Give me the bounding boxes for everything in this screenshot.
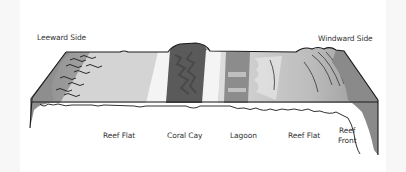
- lagoon-patch-1: [228, 72, 246, 77]
- reef-front-label-line1: Reef: [338, 126, 356, 136]
- reef-cross-section-diagram: [0, 0, 406, 172]
- coral-cay-shape: [166, 43, 207, 103]
- lagoon-shape: [224, 52, 252, 103]
- lagoon-label: Lagoon: [230, 131, 257, 140]
- reef-flat-right-label: Reef Flat: [288, 131, 320, 140]
- reef-flat-left-label: Reef Flat: [103, 131, 135, 140]
- lagoon-patch-2: [228, 88, 246, 92]
- leeward-side-label: Leeward Side: [37, 33, 86, 42]
- reef-front-label: Reef Front: [338, 126, 356, 146]
- platform-underside-outline: [40, 104, 360, 154]
- coral-cay-label: Coral Cay: [167, 131, 202, 140]
- reef-front-label-line2: Front: [338, 136, 356, 146]
- windward-side-label: Windward Side: [318, 34, 373, 43]
